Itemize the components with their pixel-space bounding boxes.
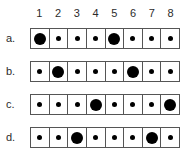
column-number-7: 7 xyxy=(143,4,162,22)
column-number-2: 2 xyxy=(49,4,68,22)
dot-large-icon xyxy=(52,66,64,78)
cell-d-6[interactable] xyxy=(124,128,143,147)
dot-small-icon xyxy=(112,135,117,140)
cell-b-2[interactable] xyxy=(50,62,69,81)
cell-a-3[interactable] xyxy=(68,29,87,48)
cell-d-4[interactable] xyxy=(87,128,106,147)
cell-c-8[interactable] xyxy=(161,95,179,114)
row-label-d: d. xyxy=(6,127,28,148)
dot-large-icon xyxy=(108,33,120,45)
dot-small-icon xyxy=(56,36,61,41)
column-number-4: 4 xyxy=(86,4,105,22)
dot-small-icon xyxy=(112,102,117,107)
cell-b-8[interactable] xyxy=(161,62,179,81)
dot-small-icon xyxy=(149,69,154,74)
cell-a-8[interactable] xyxy=(161,29,179,48)
cell-d-3[interactable] xyxy=(68,128,87,147)
cell-b-5[interactable] xyxy=(106,62,125,81)
column-number-5: 5 xyxy=(105,4,124,22)
cell-b-3[interactable] xyxy=(68,62,87,81)
cell-c-6[interactable] xyxy=(124,95,143,114)
row-label-a: a. xyxy=(6,28,28,49)
pattern-row-d: d. xyxy=(0,127,190,148)
cell-a-4[interactable] xyxy=(87,29,106,48)
cell-d-7[interactable] xyxy=(143,128,162,147)
dot-small-icon xyxy=(93,135,98,140)
column-number-1: 1 xyxy=(30,4,49,22)
cell-a-5[interactable] xyxy=(106,29,125,48)
cell-a-7[interactable] xyxy=(143,29,162,48)
cell-c-4[interactable] xyxy=(87,95,106,114)
cell-b-7[interactable] xyxy=(143,62,162,81)
dot-small-icon xyxy=(149,36,154,41)
row-label-c: c. xyxy=(6,94,28,115)
dot-small-icon xyxy=(168,135,173,140)
dot-small-icon xyxy=(93,69,98,74)
dot-small-icon xyxy=(56,102,61,107)
cell-c-5[interactable] xyxy=(106,95,125,114)
dot-small-icon xyxy=(37,69,42,74)
dot-large-icon xyxy=(90,99,102,111)
dot-small-icon xyxy=(149,102,154,107)
column-header-row: 1 2 3 4 5 6 7 8 xyxy=(30,4,180,22)
pattern-row-b: b. xyxy=(0,61,190,82)
cell-d-1[interactable] xyxy=(31,128,50,147)
pattern-row-c: c. xyxy=(0,94,190,115)
cell-b-6[interactable] xyxy=(124,62,143,81)
row-b-cells xyxy=(30,61,180,82)
row-d-cells xyxy=(30,127,180,148)
dot-small-icon xyxy=(130,36,135,41)
dot-large-icon xyxy=(146,132,158,144)
pattern-row-a: a. xyxy=(0,28,190,49)
dot-small-icon xyxy=(37,135,42,140)
dot-small-icon xyxy=(130,102,135,107)
dot-small-icon xyxy=(75,102,80,107)
dot-small-icon xyxy=(93,36,98,41)
cell-c-2[interactable] xyxy=(50,95,69,114)
dot-small-icon xyxy=(112,69,117,74)
column-number-8: 8 xyxy=(161,4,180,22)
cell-a-6[interactable] xyxy=(124,29,143,48)
cell-a-1[interactable] xyxy=(31,29,50,48)
dot-small-icon xyxy=(56,135,61,140)
cell-b-4[interactable] xyxy=(87,62,106,81)
dot-small-icon xyxy=(75,36,80,41)
dot-pattern-figure: 1 2 3 4 5 6 7 8 a. b. xyxy=(0,0,190,164)
column-number-3: 3 xyxy=(68,4,87,22)
dot-small-icon xyxy=(130,135,135,140)
cell-c-7[interactable] xyxy=(143,95,162,114)
cell-d-5[interactable] xyxy=(106,128,125,147)
row-a-cells xyxy=(30,28,180,49)
dot-large-icon xyxy=(34,33,46,45)
cell-d-8[interactable] xyxy=(161,128,179,147)
cell-a-2[interactable] xyxy=(50,29,69,48)
cell-d-2[interactable] xyxy=(50,128,69,147)
dot-large-icon xyxy=(164,99,176,111)
dot-small-icon xyxy=(75,69,80,74)
dot-small-icon xyxy=(168,36,173,41)
cell-c-3[interactable] xyxy=(68,95,87,114)
cell-c-1[interactable] xyxy=(31,95,50,114)
dot-large-icon xyxy=(71,132,83,144)
cell-b-1[interactable] xyxy=(31,62,50,81)
row-label-b: b. xyxy=(6,61,28,82)
dot-large-icon xyxy=(127,66,139,78)
dot-small-icon xyxy=(37,102,42,107)
column-number-6: 6 xyxy=(124,4,143,22)
row-c-cells xyxy=(30,94,180,115)
dot-small-icon xyxy=(168,69,173,74)
